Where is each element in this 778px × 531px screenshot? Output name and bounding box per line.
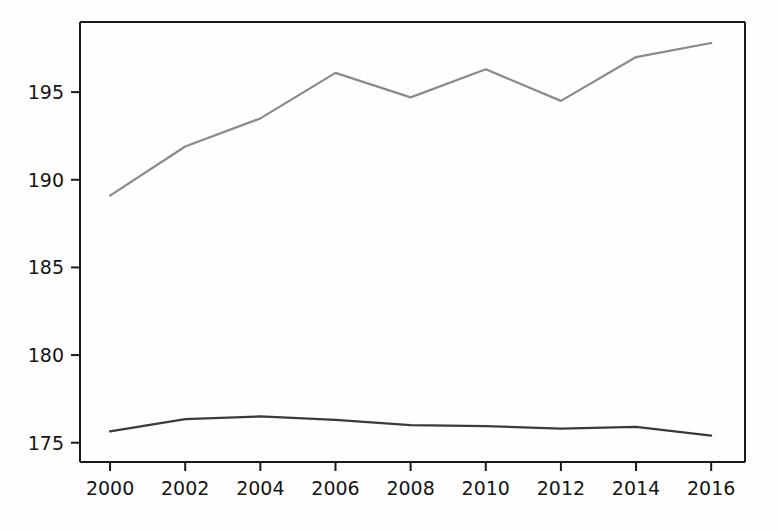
x-tick-label: 2000 [86,477,134,499]
plot-background [0,0,778,531]
y-tick-label: 180 [28,344,64,366]
chart-container: 175180185190195 200020022004200620082010… [0,0,778,531]
x-tick-label: 2010 [462,477,510,499]
x-tick-label: 2016 [687,477,735,499]
x-tick-label: 2006 [311,477,359,499]
x-tick-label: 2014 [612,477,660,499]
y-tick-label: 185 [28,256,64,278]
x-tick-label: 2008 [386,477,434,499]
x-tick-label: 2004 [236,477,284,499]
line-chart-plot: 175180185190195 200020022004200620082010… [0,0,778,531]
x-tick-label: 2012 [537,477,585,499]
y-tick-label: 175 [28,432,64,454]
y-tick-label: 195 [28,81,64,103]
y-tick-label: 190 [28,169,64,191]
x-tick-label: 2002 [161,477,209,499]
